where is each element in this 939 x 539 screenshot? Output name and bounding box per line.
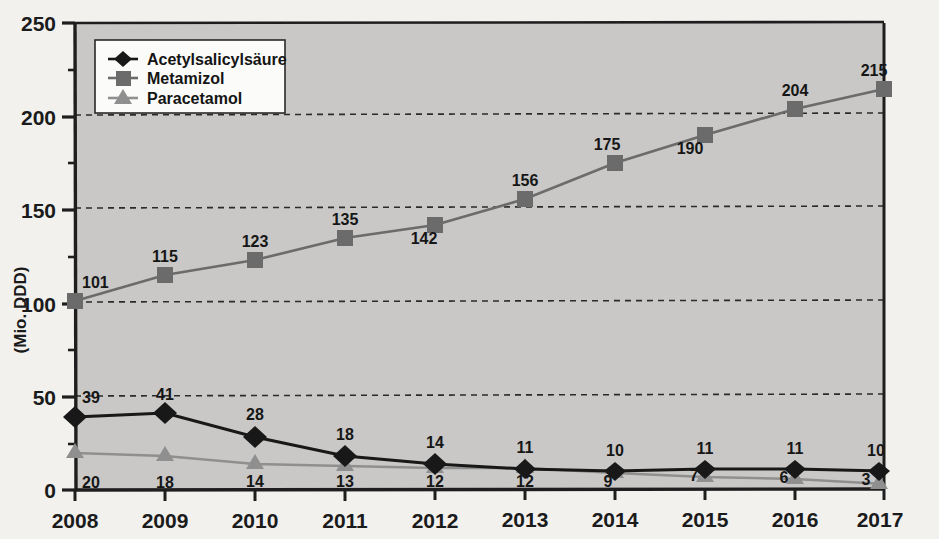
x-axis-line [75, 489, 884, 490]
y-axis-title: (Mio. DDD) [11, 267, 30, 354]
point-label-acetylsalicylsaeure-2013: 11 [517, 439, 534, 456]
x-tick-label-2011: 2011 [322, 509, 368, 532]
x-tick-label-2015: 2015 [682, 508, 729, 531]
point-label-paracetamol-2008: 20 [82, 474, 100, 491]
point-label-paracetamol-2013: 12 [516, 473, 534, 490]
x-tick-label-2013: 2013 [502, 508, 549, 531]
point-label-metamizol-2013: 156 [512, 172, 539, 189]
point-label-metamizol-2008: 101 [82, 274, 109, 291]
point-label-metamizol-2012: 142 [411, 230, 438, 247]
point-label-metamizol-2017: 215 [861, 62, 888, 79]
point-label-acetylsalicylsaeure-2015: 11 [697, 440, 714, 457]
y-tick-label-0: 0 [44, 479, 56, 502]
point-label-acetylsalicylsaeure-2012: 14 [426, 434, 444, 451]
legend-label-acetylsalicylsaeure: Acetylsalicylsäure [147, 51, 287, 68]
y-tick-label-50: 50 [33, 386, 56, 409]
chart-svg: 250 200 150 100 50 0 (Mio. DDD) 2008 200… [0, 0, 939, 539]
plot-border-top [75, 22, 884, 23]
point-label-metamizol-2011: 135 [332, 211, 359, 228]
chart-figure: 250 200 150 100 50 0 (Mio. DDD) 2008 200… [0, 0, 939, 539]
point-label-paracetamol-2010: 14 [246, 473, 264, 490]
point-label-paracetamol-2017: 3 [862, 471, 871, 488]
point-label-paracetamol-2009: 18 [156, 474, 174, 491]
x-tick-label-2017: 2017 [857, 508, 904, 531]
point-label-paracetamol-2014: 9 [604, 473, 613, 490]
point-label-paracetamol-2016: 6 [780, 469, 789, 486]
y-tick-label-200: 200 [21, 106, 56, 129]
legend-label-metamizol: Metamizol [147, 70, 224, 87]
point-label-paracetamol-2015: 7 [690, 467, 699, 484]
point-label-acetylsalicylsaeure-2009: 41 [156, 386, 174, 403]
x-tick-label-2009: 2009 [142, 509, 189, 532]
x-tick-label-2010: 2010 [232, 509, 279, 532]
point-label-paracetamol-2011: 13 [336, 473, 354, 490]
chart-legend[interactable]: Acetylsalicylsäure Metamizol Paracetamol [95, 40, 287, 113]
point-label-metamizol-2009: 115 [152, 248, 178, 265]
point-label-acetylsalicylsaeure-2016: 11 [787, 440, 804, 457]
point-label-acetylsalicylsaeure-2014: 10 [606, 442, 624, 459]
legend-label-paracetamol: Paracetamol [147, 90, 242, 107]
point-label-metamizol-2016: 204 [782, 82, 809, 99]
x-tick-label-2008: 2008 [52, 509, 99, 532]
point-label-paracetamol-2012: 12 [426, 473, 444, 490]
point-label-metamizol-2010: 123 [242, 233, 269, 250]
point-label-acetylsalicylsaeure-2010: 28 [246, 406, 264, 423]
point-label-metamizol-2014: 175 [594, 136, 621, 153]
x-tick-label-2016: 2016 [772, 508, 819, 531]
x-tick-label-2012: 2012 [412, 509, 459, 532]
point-label-acetylsalicylsaeure-2008: 39 [82, 389, 100, 406]
y-tick-label-250: 250 [21, 12, 56, 35]
x-tick-label-2014: 2014 [592, 508, 639, 531]
legend-item-metamizol[interactable]: Metamizol [108, 70, 224, 87]
point-label-acetylsalicylsaeure-2017: 10 [867, 442, 885, 459]
point-label-metamizol-2015: 190 [677, 140, 704, 157]
y-tick-label-150: 150 [21, 199, 56, 222]
point-label-acetylsalicylsaeure-2011: 18 [336, 426, 354, 443]
square-icon [116, 71, 131, 86]
